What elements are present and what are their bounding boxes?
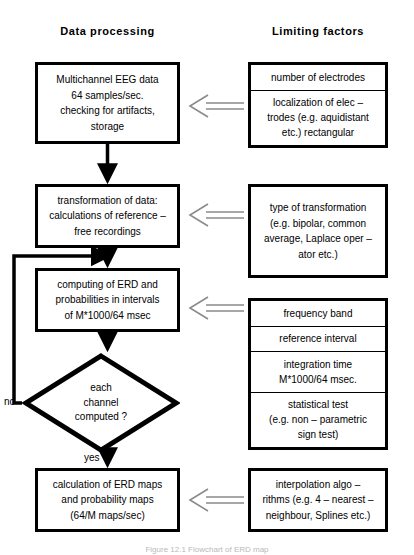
box-line: calculation of ERD maps: [53, 477, 163, 493]
box-line: interpolation algo –: [276, 477, 361, 493]
cell-line: statistical test: [288, 397, 348, 412]
box-line: checking for artifacts,: [60, 103, 154, 119]
factor-cell-reference-interval: reference interval: [251, 327, 385, 353]
factor-box-transformation-type: type of transformation (e.g. bipolar, co…: [248, 184, 388, 278]
column-heading-limiting-factors: Limiting factors: [248, 25, 388, 37]
factor-cell-statistical-test: statistical test (e.g. non – parametric …: [251, 393, 385, 448]
cell-line: (e.g. non – parametric: [269, 412, 367, 427]
edge-label-no: no: [4, 396, 15, 407]
box-line: rithms (e.g. 4 – nearest –: [262, 492, 373, 508]
box-line: and probability maps: [61, 492, 153, 508]
box-line: neighbour, Splines etc.): [266, 508, 371, 524]
factor-box-electrodes: number of electrodes localization of ele…: [248, 62, 388, 148]
cell-line: sign test): [298, 427, 339, 442]
diamond-shape: [22, 352, 180, 454]
factor-cell-frequency-band: frequency band: [251, 301, 385, 327]
cell-line: reference interval: [279, 331, 356, 346]
process-box-erd-computation: computing of ERD and probabilities in in…: [35, 268, 180, 332]
process-box-transformation: transformation of data: calculations of …: [35, 184, 180, 248]
cell-line: frequency band: [284, 306, 353, 321]
box-line: calculations of reference –: [49, 208, 166, 224]
box-line: (e.g. bipolar, common: [270, 216, 366, 232]
process-box-data-acquisition: Multichannel EEG data 64 samples/sec. ch…: [35, 62, 180, 144]
process-box-erd-map-calculation: calculation of ERD maps and probability …: [35, 468, 180, 532]
column-heading-data-processing: Data processing: [35, 25, 180, 37]
box-line: of M*1000/64 msec: [64, 308, 150, 324]
factor-cell-electrode-localization: localization of elec – trodes (e.g. aqui…: [251, 91, 385, 146]
box-line: computing of ERD and: [57, 277, 158, 293]
cell-line: localization of elec –: [273, 95, 363, 110]
factor-box-computation-parameters: frequency band reference interval integr…: [248, 298, 388, 450]
edge-label-yes: yes: [84, 452, 100, 463]
flowchart-canvas: Data processing Limiting factors: [0, 0, 414, 555]
decision-diamond-each-channel-computed: each channel computed ?: [22, 352, 180, 454]
cell-line: etc.) rectangular: [282, 125, 354, 140]
box-line: storage: [91, 119, 124, 135]
figure-caption: Figure 12.1 Flowchart of ERD map: [0, 545, 414, 554]
box-line: 64 samples/sec.: [71, 88, 143, 104]
box-line: average, Laplace oper –: [264, 231, 372, 247]
box-line: ator etc.): [298, 247, 337, 263]
cell-line: number of electrodes: [271, 70, 365, 85]
box-line: probabilities in intervals: [56, 292, 160, 308]
box-line: type of transformation: [270, 200, 367, 216]
factor-box-interpolation-algorithms: interpolation algo – rithms (e.g. 4 – ne…: [248, 468, 388, 532]
box-line: Multichannel EEG data: [56, 72, 158, 88]
factor-cell-integration-time: integration time M*1000/64 msec.: [251, 352, 385, 393]
factor-cell-number-of-electrodes: number of electrodes: [251, 65, 385, 91]
box-line: free recordings: [74, 224, 141, 240]
cell-line: trodes (e.g. aquidistant: [267, 110, 369, 125]
cell-line: integration time: [284, 357, 352, 372]
box-line: (64/M maps/sec): [70, 508, 144, 524]
cell-line: M*1000/64 msec.: [279, 372, 357, 387]
box-line: transformation of data:: [57, 193, 157, 209]
